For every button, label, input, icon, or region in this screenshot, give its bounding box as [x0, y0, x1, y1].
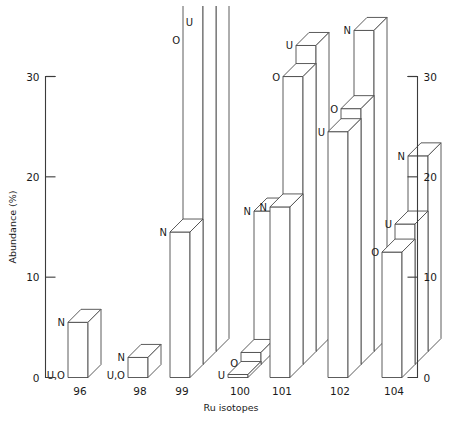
bar-label-99-O: O [172, 35, 180, 46]
bar-side-face [361, 96, 374, 365]
bar-label-99-U: U [186, 17, 193, 28]
bar-label-101-N: N [260, 202, 267, 213]
y-tick-label-right-30: 30 [424, 71, 437, 83]
bar-front-face [382, 252, 402, 377]
bar-label-100-N: N [244, 206, 251, 217]
bar-98-N [128, 344, 161, 377]
bar-label-101-O: O [272, 72, 280, 83]
x-tick-label-96: 96 [73, 385, 87, 397]
bar-96-N [68, 309, 101, 377]
bar-label-96-UO: U,O [47, 370, 65, 381]
bar-side-face [290, 194, 303, 378]
x-tick-label-102: 102 [330, 385, 350, 397]
bar-side-face [402, 239, 415, 377]
bar-front-face [128, 357, 148, 377]
bar-label-104-U: U [385, 219, 392, 230]
y-tick-label-right-0: 0 [424, 372, 431, 384]
y-tick-label-right-20: 20 [424, 171, 437, 183]
x-tick-label-101: 101 [272, 385, 292, 397]
bar-label-99-N: N [160, 227, 167, 238]
y-tick-label-left-20: 20 [26, 171, 39, 183]
y-axis-title: Abundance (%) [7, 191, 18, 264]
bar-label-102-O: O [330, 104, 338, 115]
bar-label-98-UO: U,O [107, 370, 125, 381]
bar-front-face [68, 322, 88, 377]
x-tick-label-98: 98 [133, 385, 146, 397]
bar-99-N [170, 219, 203, 377]
bars-layer [68, 0, 441, 377]
x-tick-label-104: 104 [384, 385, 404, 397]
bar-side-face [190, 219, 203, 377]
bar-front-face [270, 207, 290, 378]
y-axis-left [46, 76, 56, 378]
bar-side-face [216, 0, 229, 351]
bar-side-face [348, 119, 361, 378]
bar-label-96-N: N [58, 317, 65, 328]
y-tick-label-left-10: 10 [26, 271, 39, 283]
bar-label-102-U: U [318, 127, 325, 138]
bar-label-104-O: O [371, 247, 379, 258]
x-tick-label-99: 99 [175, 385, 188, 397]
bar-front-face [228, 374, 248, 377]
bar-side-face [303, 64, 316, 365]
y-tick-label-left-30: 30 [26, 71, 39, 83]
bar-101-N [270, 194, 303, 378]
y-tick-label-right-10: 10 [424, 271, 437, 283]
ru-isotope-abundance-chart: NU,ONU,ONOUUONNOUUONOUN30302020101000Abu… [0, 0, 462, 421]
bar-label-104-N: N [398, 151, 405, 162]
bar-label-101-U: U [286, 40, 293, 51]
bar-side-face [316, 32, 329, 351]
bar-side-face [203, 0, 216, 365]
bar-front-face [328, 132, 348, 378]
bar-label-100-U: U [218, 370, 225, 381]
x-tick-label-100: 100 [230, 385, 250, 397]
y-tick-label-left-0: 0 [33, 372, 40, 384]
bar-100-O [241, 339, 274, 364]
bar-104-O [382, 239, 415, 377]
bar-label-102-N: N [344, 25, 351, 36]
bar-102-U [328, 119, 361, 378]
bar-label-100-O: O [230, 358, 238, 369]
bar-label-98-N: N [118, 352, 125, 363]
x-axis-title: Ru isotopes [204, 402, 259, 413]
chart-canvas: NU,ONU,ONOUUONNOUUONOUN30302020101000Abu… [0, 0, 462, 421]
bar-front-face [170, 232, 190, 377]
